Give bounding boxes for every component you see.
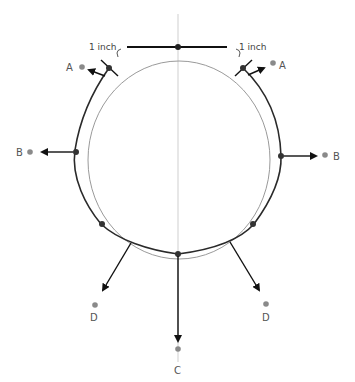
target-dot-b-right: [322, 152, 328, 158]
target-dot-c: [175, 346, 181, 352]
target-dot-a-right: [270, 60, 276, 66]
point-d-right: [250, 221, 256, 227]
label-a-left: A: [66, 62, 73, 73]
label-a-right: A: [279, 60, 286, 71]
target-dot-b-left: [27, 149, 33, 155]
point-a-right: [240, 65, 246, 71]
label-b-left: B: [16, 147, 23, 158]
point-d-left: [99, 221, 105, 227]
label-b-right: B: [333, 151, 340, 162]
target-dot-d-right: [263, 301, 269, 307]
point-a-left: [106, 65, 112, 71]
top-center-point: [175, 44, 181, 50]
point-b-left: [73, 149, 79, 155]
pattern-adjustment-diagram: A A B B D D C 1 inch 1 inch: [0, 0, 355, 382]
label-c: C: [174, 365, 181, 376]
label-inch-left: 1 inch: [89, 42, 116, 52]
label-inch-right: 1 inch: [239, 42, 266, 52]
arrow-d-right: [230, 242, 259, 290]
target-dot-a-left: [79, 64, 85, 70]
point-b-right: [278, 153, 284, 159]
target-dot-d-left: [92, 302, 98, 308]
arrow-a-right: [248, 68, 264, 75]
label-d-right: D: [262, 312, 270, 323]
arrow-a-left: [89, 70, 105, 76]
label-d-left: D: [90, 312, 98, 323]
arrow-d-left: [103, 243, 131, 290]
inch-bracket-left: [117, 49, 121, 57]
inner-circle: [88, 61, 270, 259]
